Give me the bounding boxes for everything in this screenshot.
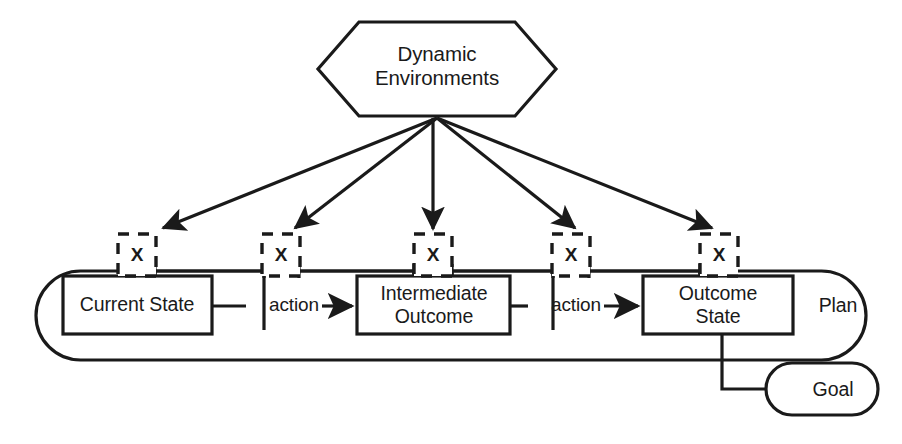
goal-shape[interactable] (766, 363, 878, 415)
arrow-to-x-2 (295, 118, 437, 228)
environment-interference-arrows (163, 118, 712, 229)
interference-box-x-5[interactable] (700, 234, 738, 276)
node-box-outcome-state[interactable] (643, 276, 793, 334)
arrow-to-x-4 (437, 118, 575, 228)
node-box-intermediate-outcome[interactable] (357, 276, 510, 334)
arrow-to-x-5 (437, 118, 712, 228)
interference-box-x-2[interactable] (262, 234, 300, 276)
dynamic-environments-hexagon (318, 22, 556, 116)
diagram-canvas: Dynamic Environments Current State Inter… (0, 0, 902, 444)
diagram-svg (0, 0, 902, 444)
arrow-to-x-1 (163, 118, 437, 228)
interference-box-x-4[interactable] (552, 234, 590, 276)
interference-box-x-1[interactable] (118, 234, 156, 276)
interference-box-x-3[interactable] (414, 234, 452, 276)
node-box-current-state[interactable] (63, 276, 212, 334)
